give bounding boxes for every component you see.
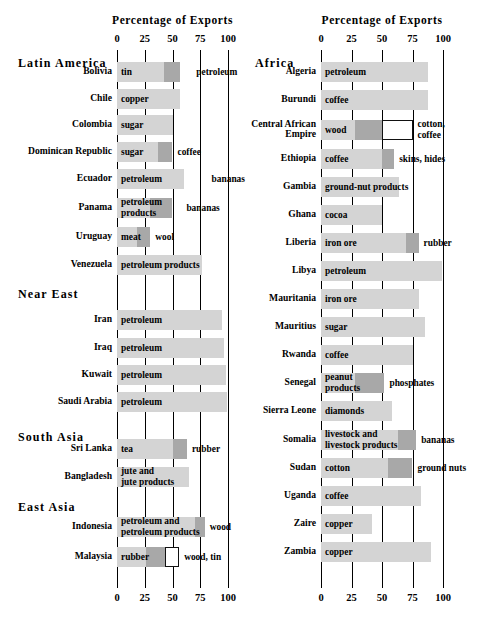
segment-label-inside: coffee	[325, 350, 348, 361]
segment-label-outside: phosphates	[389, 378, 434, 389]
x-tick-label: 50	[167, 592, 178, 603]
x-tick-label: 0	[318, 592, 323, 603]
segment-label-outside: cotton, coffee	[418, 119, 445, 141]
segment-label-inside: meat	[121, 232, 141, 243]
segment-label-outside: coffee	[178, 147, 201, 158]
segment-label-inside: ground-nut products	[325, 182, 408, 193]
x-tick-label: 75	[407, 33, 418, 44]
row-label: Kuwait	[20, 369, 112, 380]
segment-label-inside: petroleum	[121, 370, 162, 381]
segment-label-outside: rubber	[424, 238, 452, 249]
x-tick-label: 25	[140, 592, 151, 603]
segment-label-inside: tin	[121, 67, 132, 78]
row-label: Colombia	[20, 119, 112, 130]
row-label: Sudan	[224, 462, 316, 473]
chart-panel-right: Percentage of Exports0025255050757510010…	[241, 0, 483, 621]
bar-segment	[173, 439, 187, 459]
segment-label-inside: jute and jute products	[121, 466, 174, 488]
axis-title: Percentage of Exports	[281, 14, 483, 26]
row-label: Mauritania	[224, 293, 316, 304]
segment-label-outside: skins, hides	[399, 154, 445, 165]
row-label: Chile	[20, 93, 112, 104]
chart-panel-left: Percentage of Exports0025255050757510010…	[0, 0, 242, 621]
x-tick-label: 100	[220, 33, 236, 44]
bar-segment	[398, 430, 416, 450]
row-label: Zambia	[224, 546, 316, 557]
x-tick-label: 0	[318, 33, 323, 44]
segment-label-inside: diamonds	[325, 406, 364, 417]
segment-label-inside: coffee	[325, 491, 348, 502]
segment-label-outside: wood, tin	[184, 552, 221, 563]
x-tick-label: 25	[346, 33, 357, 44]
segment-label-inside: petroleum and petroleum products	[121, 516, 200, 538]
segment-label-inside: rubber	[121, 552, 149, 563]
segment-label-inside: petroleum products	[121, 260, 200, 271]
segment-label-outside: rubber	[192, 444, 220, 455]
x-tick-label: 75	[195, 592, 206, 603]
segment-label-inside: copper	[325, 519, 353, 530]
segment-label-inside: livestock and livestock products	[325, 429, 398, 451]
segment-label-inside: petroleum	[325, 266, 366, 277]
segment-label-outside: ground nuts	[418, 463, 467, 474]
row-label: Rwanda	[224, 349, 316, 360]
group-heading: Near East	[18, 287, 79, 302]
row-label: Senegal	[224, 377, 316, 388]
segment-label-outside: bananas	[421, 435, 454, 446]
row-label: Burundi	[224, 94, 316, 105]
x-tick-label: 50	[377, 592, 388, 603]
row-label: Sierra Leone	[224, 405, 316, 416]
segment-label-inside: sugar	[325, 322, 347, 333]
row-label: Liberia	[224, 237, 316, 248]
segment-label-inside: cotton	[325, 463, 350, 474]
row-label: Iran	[20, 314, 112, 325]
row-label: Uruguay	[20, 231, 112, 242]
row-label: Zaire	[224, 518, 316, 529]
axis-title: Percentage of Exports	[77, 14, 268, 26]
segment-label-inside: petroleum	[121, 315, 162, 326]
bar-segment	[406, 233, 418, 253]
segment-label-outside: wool	[155, 232, 174, 243]
x-tick-label: 100	[220, 592, 236, 603]
row-label: Bangladesh	[20, 471, 112, 482]
row-label: Iraq	[20, 342, 112, 353]
bar-segment	[164, 62, 181, 82]
bar-segment	[355, 120, 382, 140]
segment-label-outside: bananas	[212, 174, 245, 185]
row-label: Venezuela	[20, 259, 112, 270]
segment-label-inside: petroleum	[121, 397, 162, 408]
row-label: Dominican Republic	[20, 146, 112, 157]
x-tick-label: 0	[114, 592, 119, 603]
row-label: Saudi Arabia	[20, 396, 112, 407]
segment-label-inside: cocoa	[325, 210, 347, 221]
segment-label-outside: wood	[210, 522, 231, 533]
x-tick-label: 75	[407, 592, 418, 603]
segment-label-outside: bananas	[186, 203, 219, 214]
row-label: Ecuador	[20, 173, 112, 184]
bar-segment	[388, 458, 412, 478]
segment-label-inside: coffee	[325, 95, 348, 106]
row-label: Uganda	[224, 490, 316, 501]
x-tick-label: 25	[346, 592, 357, 603]
row-label: Somalia	[224, 434, 316, 445]
x-tick-label: 75	[195, 33, 206, 44]
segment-label-inside: coffee	[325, 154, 348, 165]
row-label: Mauritius	[224, 321, 316, 332]
segment-label-inside: wood	[325, 125, 346, 136]
row-label: Ghana	[224, 209, 316, 220]
row-label: Bolivia	[20, 66, 112, 77]
segment-label-inside: petroleum	[121, 174, 162, 185]
segment-label-outside: petroleum	[196, 67, 237, 78]
x-tick-label: 100	[435, 33, 451, 44]
segment-label-inside: copper	[121, 94, 149, 105]
row-label: Malaysia	[20, 551, 112, 562]
segment-label-inside: sugar	[121, 120, 143, 131]
bar-segment	[158, 142, 172, 162]
row-label: Panama	[20, 202, 112, 213]
segment-label-inside: petroleum	[121, 343, 162, 354]
row-label: Ethiopia	[224, 153, 316, 164]
segment-label-inside: sugar	[121, 147, 143, 158]
bar-segment	[165, 547, 179, 567]
x-tick-label: 0	[114, 33, 119, 44]
segment-label-inside: petroleum products	[121, 197, 162, 219]
segment-label-inside: peanut products	[325, 372, 360, 394]
